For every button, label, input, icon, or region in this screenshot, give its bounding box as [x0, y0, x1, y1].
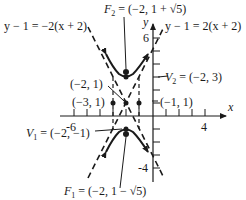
vertex-bottom-label: V1 = (−2, −1) [26, 126, 90, 142]
focus-top-point [123, 69, 129, 75]
focus-bottom-point [123, 131, 129, 137]
x-tick-label-4: 4 [201, 120, 207, 134]
y-axis-label: y [142, 15, 149, 29]
focus-bottom-label: F1 = (−2, 1 − √5) [63, 184, 146, 200]
left-point [111, 101, 116, 106]
x-axis-label: x [227, 100, 234, 114]
focus-top-label: F2 = (−2, 1 + √5) [103, 2, 186, 18]
right-point [137, 101, 142, 106]
asymptote-left-label: y − 1 = −2(x + 2) [4, 19, 87, 33]
center-point [124, 101, 129, 106]
point-right-label: (−1, 1) [160, 95, 193, 109]
vertex-top-point [124, 75, 129, 80]
vertex-top-label: V2 = (−2, 3) [165, 70, 222, 86]
point-left-label: (−3, 1) [72, 95, 105, 109]
center-label: (−2, 1) [70, 77, 103, 91]
x-axis [60, 109, 226, 116]
y-tick-label-neg4: -4 [138, 161, 148, 175]
y-axis [153, 24, 160, 182]
hyperbola-diagram: x y -6 4 6 -4 y − 1 = −2(x + 2) [0, 0, 246, 200]
vertex-bottom-point [124, 127, 129, 132]
y-tick-label-6: 6 [143, 31, 149, 45]
asymptote-right-label: y − 1 = 2(x + 2) [165, 19, 241, 33]
